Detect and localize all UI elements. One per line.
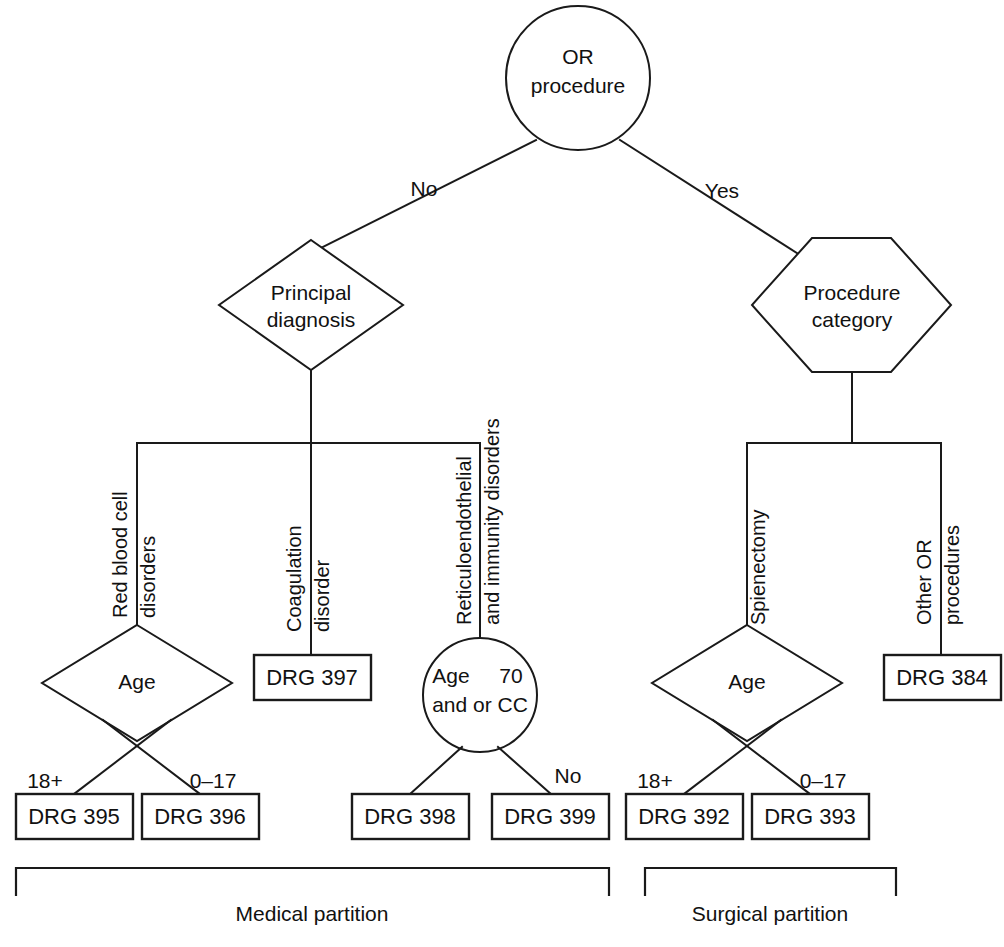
box-drg-392-label: DRG 392 (638, 804, 730, 829)
edge-label-yes: Yes (705, 179, 739, 202)
box-drg-397-label: DRG 397 (266, 665, 358, 690)
node-procedure-category-label-line2: category (812, 308, 893, 331)
box-drg-396-label: DRG 396 (154, 804, 246, 829)
label-red-blood-cell-disorders-line1: Red blood cell (109, 491, 131, 618)
node-principal-diagnosis-label-line1: Principal (271, 281, 352, 304)
label-coagulation-disorder-line1: Coagulation (283, 525, 305, 632)
box-drg-399: DRG 399 (492, 794, 609, 839)
label-splenectomy: Spienectomy (747, 509, 769, 625)
node-age-cc-label-70: 70 (499, 664, 522, 687)
label-reticuloendothelial-and-immunity-disorders: Reticuloendothelial and immunity disorde… (453, 418, 503, 625)
edge-label-age-cc-no: No (555, 764, 582, 787)
node-age-cc-label-age: Age (432, 664, 469, 687)
box-drg-398-label: DRG 398 (364, 804, 456, 829)
label-coagulation-disorder: Coagulation disorder (283, 525, 333, 632)
node-principal-diagnosis: Principal diagnosis (219, 240, 403, 370)
partition-label-medical: Medical partition (236, 902, 389, 925)
label-other-or-procedures-line2: procedures (941, 525, 963, 625)
edge-label-no: No (411, 177, 438, 200)
node-or-procedure-label-line2: procedure (531, 74, 626, 97)
node-or-procedure-label-line1: OR (562, 45, 594, 68)
node-procedure-category-label-line1: Procedure (804, 281, 901, 304)
partition-label-surgical: Surgical partition (692, 902, 848, 925)
edge-age-cc-to-drg-399 (498, 747, 551, 794)
bracket-surgical-partition: Surgical partition (645, 868, 896, 925)
box-drg-384-label: DRG 384 (896, 665, 988, 690)
edge-age-cc-to-drg-398 (410, 747, 462, 794)
box-drg-392: DRG 392 (626, 794, 743, 839)
edge-label-age-medical-0-17: 0–17 (190, 769, 237, 792)
box-drg-393-label: DRG 393 (764, 804, 856, 829)
edge-label-age-surgical-0-17: 0–17 (800, 769, 847, 792)
label-splenectomy-line1: Spienectomy (747, 509, 769, 625)
node-age-surgical: Age (652, 625, 842, 741)
node-age-cc: Age 70 and or CC (423, 638, 537, 752)
node-or-procedure: OR procedure (506, 6, 650, 150)
label-reticuloendothelial-line1: Reticuloendothelial (453, 456, 475, 625)
label-coagulation-disorder-line2: disorder (311, 559, 333, 632)
node-age-cc-label-line2: and or CC (432, 693, 528, 716)
box-drg-395: DRG 395 (16, 794, 133, 839)
box-drg-396: DRG 396 (142, 794, 259, 839)
flowchart-canvas: OR procedure No Yes Principal diagnosis … (0, 0, 1004, 947)
edge-label-age-medical-18plus: 18+ (27, 769, 63, 792)
node-procedure-category: Procedure category (752, 238, 951, 372)
box-drg-384: DRG 384 (884, 655, 1001, 700)
label-red-blood-cell-disorders: Red blood cell disorders (109, 491, 159, 618)
label-other-or-procedures: Other OR procedures (913, 525, 963, 625)
node-age-surgical-label: Age (728, 670, 765, 693)
label-red-blood-cell-disorders-line2: disorders (137, 536, 159, 618)
label-reticuloendothelial-line2: and immunity disorders (481, 418, 503, 625)
node-age-medical: Age (42, 625, 232, 741)
box-drg-397: DRG 397 (254, 655, 371, 700)
edge-label-age-surgical-18plus: 18+ (637, 769, 673, 792)
drg-decision-tree-diagram: OR procedure No Yes Principal diagnosis … (0, 0, 1004, 947)
label-other-or-procedures-line1: Other OR (913, 539, 935, 625)
bracket-medical-partition: Medical partition (16, 868, 609, 925)
box-drg-398: DRG 398 (352, 794, 469, 839)
node-age-medical-label: Age (118, 670, 155, 693)
box-drg-399-label: DRG 399 (504, 804, 596, 829)
box-drg-393: DRG 393 (752, 794, 869, 839)
box-drg-395-label: DRG 395 (28, 804, 120, 829)
node-principal-diagnosis-label-line2: diagnosis (267, 308, 356, 331)
